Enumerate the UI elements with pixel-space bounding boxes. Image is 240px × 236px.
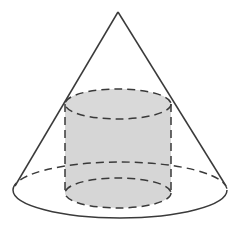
cone-cylinder-diagram <box>0 0 240 236</box>
